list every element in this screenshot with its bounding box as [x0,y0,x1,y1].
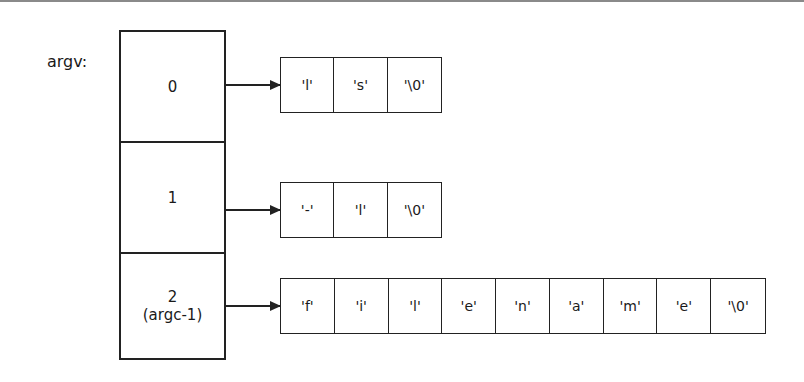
string-filename: 'f' 'i' 'l' 'e' 'n' 'a' 'm' 'e' '\0' [280,278,766,334]
slot-index: 1 [168,189,178,207]
arrow-icon [226,209,280,211]
argv-label: argv: [47,52,87,71]
arrow-icon [226,84,280,86]
char-cell: 'f' [281,279,335,333]
char-cell: 'l' [281,58,334,112]
string-ls: 'l' 's' '\0' [280,57,442,113]
char-cell: 'm' [604,279,658,333]
argv-slot-0: 0 [121,32,224,141]
char-cell: 'l' [389,279,443,333]
slot-index: 0 [168,78,178,96]
char-cell: '-' [281,183,334,237]
char-cell: 'e' [657,279,711,333]
argv-slot-2: 2 (argc-1) [121,252,224,358]
char-cell: 's' [334,58,387,112]
char-cell: 'n' [496,279,550,333]
slot-index: 2 [168,288,178,306]
char-cell: 'a' [550,279,604,333]
argv-slot-1: 1 [121,141,224,252]
char-cell: 'l' [334,183,387,237]
top-border [0,0,804,2]
string-dash-l: '-' 'l' '\0' [280,182,442,238]
char-cell: '\0' [711,279,765,333]
char-cell: 'e' [442,279,496,333]
slot-sublabel: (argc-1) [143,306,203,324]
argv-pointer-array: 0 1 2 (argc-1) [119,30,226,360]
char-cell: '\0' [388,58,441,112]
arrow-icon [226,305,280,307]
char-cell: '\0' [388,183,441,237]
char-cell: 'i' [335,279,389,333]
